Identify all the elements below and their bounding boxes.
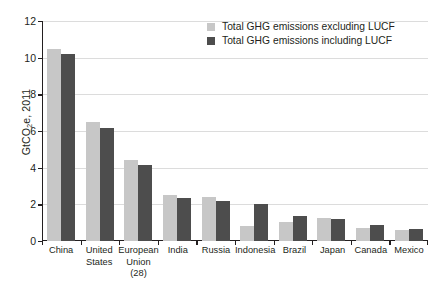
y-tick-label: 8 [30,88,36,100]
x-axis-label-line: States [80,257,118,269]
bar [86,122,100,241]
bar [202,197,216,241]
bar [124,160,138,241]
bar [216,201,230,241]
x-axis-label: Mexico [390,245,428,280]
legend-label: Total GHG emissions including LUCF [222,35,392,46]
x-axis-label: Russia [197,245,235,280]
x-axis-label-line: Indonesia [235,245,275,257]
bar [163,195,177,241]
legend-swatch [207,23,215,31]
y-tick-label: 10 [24,52,36,64]
y-tick-label: 12 [24,15,36,27]
bar [254,204,268,241]
y-tick-label: 2 [30,198,36,210]
bar [47,49,61,242]
x-axis-label-line: Mexico [390,245,428,257]
legend-item: Total GHG emissions excluding LUCF [207,21,395,32]
bar [331,219,345,241]
bar-groups [42,21,428,241]
plot-area: 024681012 [42,21,428,241]
bar-group [274,21,313,241]
bar-group [81,21,120,241]
x-axis-labels: ChinaUnitedStatesEuropeanUnion (28)India… [42,245,428,280]
bar [61,54,75,241]
x-axis-label: UnitedStates [80,245,118,280]
bar-group [351,21,390,241]
bar-group [196,21,235,241]
x-axis-label: China [42,245,80,280]
bar-group [235,21,274,241]
y-tick-label: 4 [30,162,36,174]
x-axis-label-line: China [42,245,80,257]
x-axis-label: Indonesia [235,245,275,280]
bar [395,230,409,241]
bar [370,225,384,241]
x-axis-label-line: India [159,245,197,257]
x-axis-label: Canada [352,245,390,280]
bar-group [119,21,158,241]
x-axis-label: India [159,245,197,280]
bar [317,218,331,241]
bar [240,226,254,241]
legend-item: Total GHG emissions including LUCF [207,35,395,46]
y-tick-label: 0 [30,235,36,247]
chart-figure: GtCO2e, 2011 024681012 ChinaUnitedStates… [0,0,430,281]
bar-group [312,21,351,241]
x-axis-label: Japan [314,245,352,280]
bar [293,216,307,241]
bar [100,128,114,241]
y-tick-label: 6 [30,125,36,137]
bar-group [158,21,197,241]
x-axis-label: EuropeanUnion (28) [118,245,158,280]
x-axis-label-line: European [118,245,158,257]
x-axis-label: Brazil [275,245,313,280]
bar [409,229,423,241]
legend-label: Total GHG emissions excluding LUCF [222,21,395,32]
x-axis-label-line: Brazil [275,245,313,257]
x-axis-label-line: Canada [352,245,390,257]
x-axis-label-line: Union (28) [118,257,158,280]
legend-swatch [207,37,215,45]
bar [177,198,191,241]
bar-group [42,21,81,241]
x-axis-label-line: Russia [197,245,235,257]
bar-group [389,21,428,241]
bar [356,228,370,241]
bar [279,222,293,241]
x-axis-label-line: United [80,245,118,257]
chart-legend: Total GHG emissions excluding LUCFTotal … [207,21,395,46]
x-axis-label-line: Japan [314,245,352,257]
bar [138,165,152,241]
